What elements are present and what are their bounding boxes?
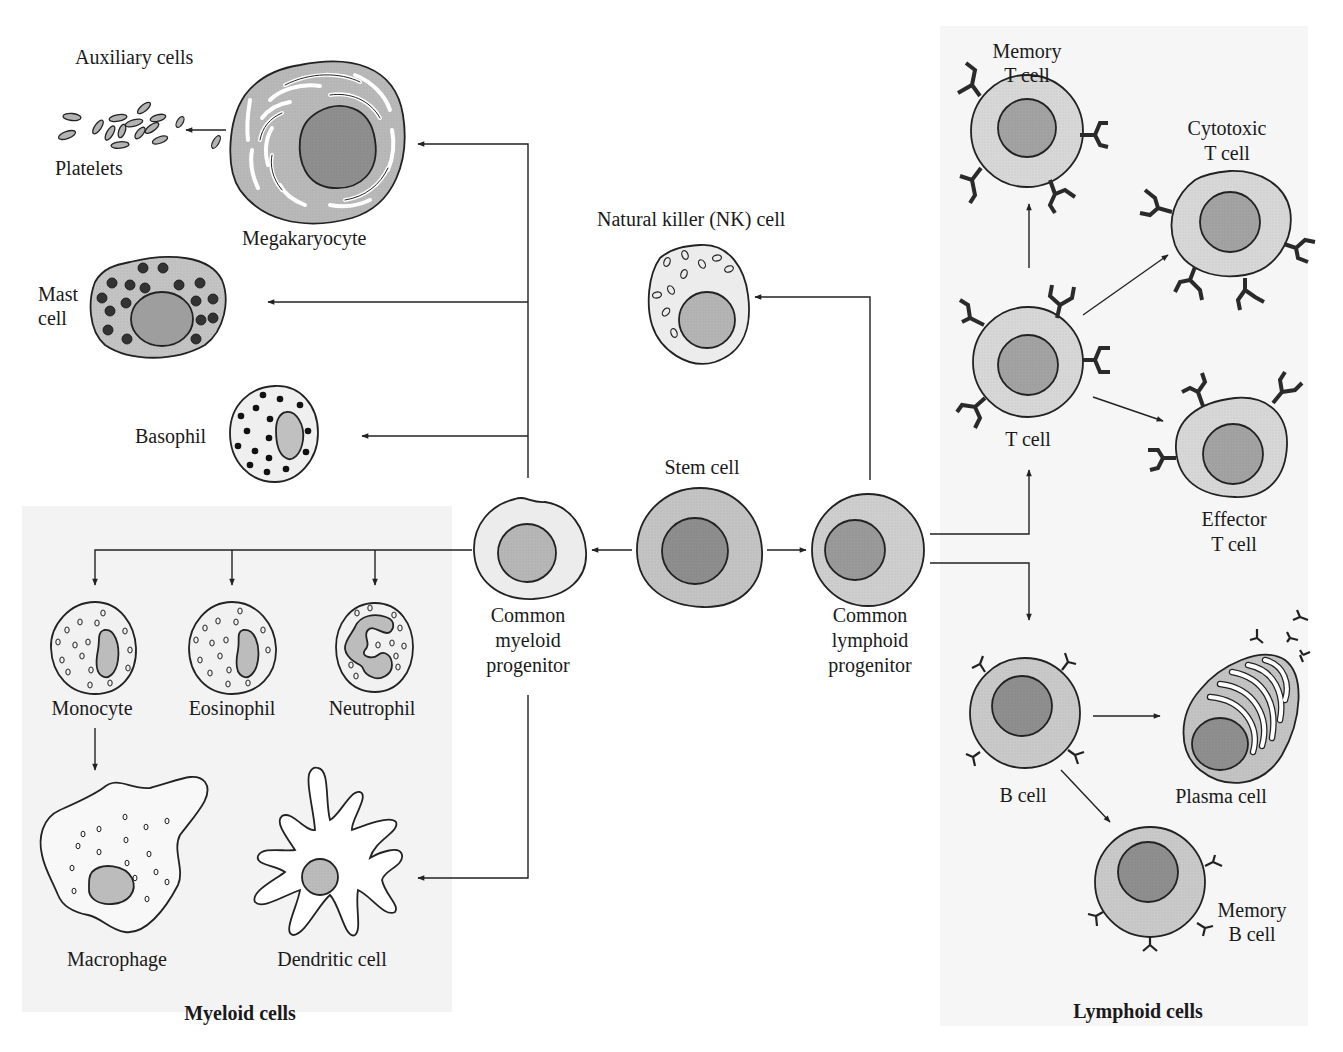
stem-cell-label: Stem cell [665, 456, 740, 478]
stem-cell-icon [637, 488, 762, 607]
t-cell-label: T cell [1005, 428, 1051, 450]
cmp-label-line2: myeloid [495, 629, 561, 652]
myeloid-panel [22, 506, 452, 1012]
nk-cell-label: Natural killer (NK) cell [597, 208, 786, 231]
megakaryocyte-label: Megakaryocyte [242, 227, 367, 250]
clp-label-line1: Common [833, 604, 907, 626]
basophil-label: Basophil [135, 425, 207, 448]
neutrophil-icon [336, 603, 413, 692]
plasma-cell-label: Plasma cell [1175, 785, 1267, 807]
lineage-diagram: Auxiliary cells Platelets [0, 0, 1343, 1052]
effector-t-cell-label-line2: T cell [1211, 533, 1257, 555]
diagram-canvas: Auxiliary cells Platelets [0, 0, 1343, 1052]
memory-b-cell-label-line1: Memory [1218, 899, 1287, 922]
memory-t-cell-label-line2: T cell [1004, 64, 1050, 86]
cmp-label-line1: Common [491, 604, 565, 626]
neutrophil-label: Neutrophil [329, 697, 416, 720]
cytotoxic-t-cell-label-line1: Cytotoxic [1188, 117, 1267, 140]
clp-label-line3: progenitor [828, 654, 912, 677]
mast-cell-label-line2: cell [38, 307, 67, 329]
platelets-label: Platelets [55, 157, 123, 179]
clp-label-line2: lymphoid [832, 629, 909, 652]
memory-b-cell-label-line2: B cell [1228, 923, 1276, 945]
monocyte-label: Monocyte [51, 697, 132, 720]
memory-t-cell-label-line1: Memory [993, 40, 1062, 63]
platelets-icon [57, 100, 222, 149]
mast-cell-icon [91, 257, 226, 358]
common-myeloid-progenitor-icon [474, 498, 586, 599]
dendritic-cell-label: Dendritic cell [277, 948, 387, 970]
auxiliary-cells-label: Auxiliary cells [75, 46, 194, 69]
mast-cell-label-line1: Mast [38, 283, 78, 305]
common-lymphoid-progenitor-icon [812, 494, 924, 606]
cytotoxic-t-cell-label-line2: T cell [1204, 142, 1250, 164]
eosinophil-icon [189, 602, 276, 694]
myeloid-panel-title: Myeloid cells [184, 1002, 296, 1025]
cmp-label-line3: progenitor [486, 654, 570, 677]
nk-cell-icon [649, 245, 749, 364]
monocyte-icon [51, 602, 136, 694]
lymphoid-panel-title: Lymphoid cells [1073, 1000, 1203, 1023]
eosinophil-label: Eosinophil [189, 697, 276, 720]
macrophage-label: Macrophage [67, 948, 167, 971]
b-cell-label: B cell [999, 784, 1047, 806]
basophil-icon [230, 386, 318, 482]
effector-t-cell-label-line1: Effector [1201, 508, 1266, 530]
megakaryocyte-icon [230, 62, 404, 224]
